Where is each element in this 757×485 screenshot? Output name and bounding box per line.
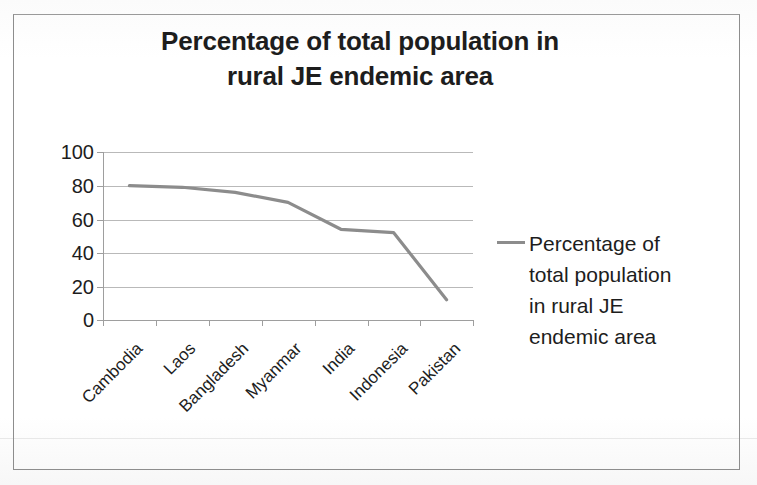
legend-label-line-2: total population: [529, 259, 671, 290]
chart-legend: Percentage of total population in rural …: [497, 228, 747, 352]
legend-entry: Percentage of total population in rural …: [497, 228, 747, 352]
legend-line-swatch-icon: [497, 241, 525, 244]
legend-label-line-4: endemic area: [529, 321, 671, 352]
legend-label-line-3: in rural JE: [529, 290, 671, 321]
scanned-page: Percentage of total population in rural …: [0, 0, 757, 485]
plot-area: 100 80 60 40 20 0 Cambodia Laos Banglade…: [0, 0, 757, 485]
legend-entry-label: Percentage of total population in rural …: [529, 228, 671, 352]
legend-label-line-1: Percentage of: [529, 228, 671, 259]
